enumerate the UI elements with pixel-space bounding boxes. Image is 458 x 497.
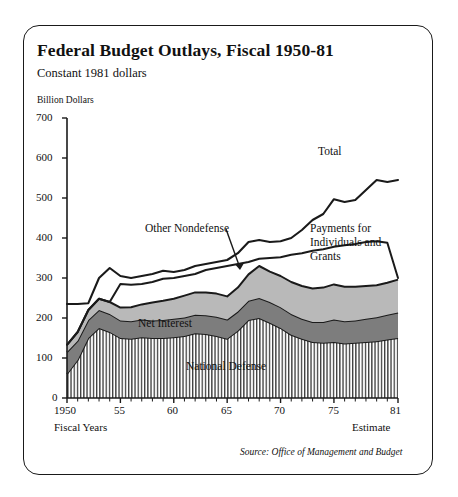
xtick-60: 60 [167,404,178,416]
xtick-75: 75 [328,404,339,416]
ytick-200: 200 [36,311,53,323]
ytick-400: 400 [36,231,53,243]
ytick-500: 500 [36,191,53,203]
annotation-payments-line1: Payments for [310,222,371,236]
xtick-65: 65 [221,404,232,416]
ytick-700: 700 [36,111,53,123]
xtick-1950: 1950 [54,404,76,416]
xtick-55: 55 [114,404,125,416]
stacked-bands [67,266,398,398]
source-note: Source: Office of Management and Budget [240,447,402,457]
annotation-net-interest: Net Interest [138,317,192,331]
annotation-other-nondefense: Other Nondefense [145,222,229,236]
ytick-300: 300 [36,271,53,283]
annotation-payments-line3: Grants [310,250,341,264]
ytick-100: 100 [36,351,53,363]
ytick-0: 0 [52,391,58,403]
x-axis-caption-left: Fiscal Years [54,421,107,433]
annotation-national-defense: National Defense [186,360,266,374]
annotation-total: Total [318,145,341,159]
ytick-600: 600 [36,151,53,163]
annotation-payments-line2: Individuals and [310,236,381,250]
xtick-70: 70 [274,404,285,416]
xtick-81: 81 [390,404,401,416]
x-axis-caption-right: Estimate [352,421,391,433]
